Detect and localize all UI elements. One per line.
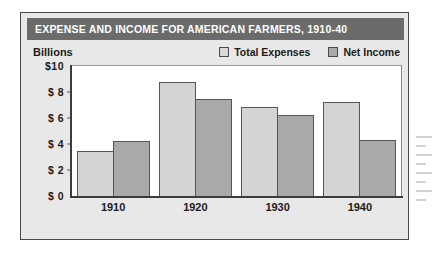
bar-group	[241, 66, 314, 196]
y-axis: $10$ 8$ 6$ 4$ 2$ 0	[27, 65, 67, 197]
legend-swatch-total-expenses	[219, 47, 229, 57]
bars-layer	[72, 66, 401, 196]
bar-group	[159, 66, 232, 196]
bar-group	[77, 66, 150, 196]
chart-title: EXPENSE AND INCOME FOR AMERICAN FARMERS,…	[27, 23, 347, 35]
bar-total-expenses	[323, 102, 360, 196]
page-margin-text	[416, 136, 441, 236]
y-axis-units-label: Billions	[33, 46, 73, 58]
x-axis-tick-label: 1940	[348, 201, 372, 213]
legend-item-net-income: Net Income	[328, 46, 400, 58]
x-axis-tick-label: 1910	[101, 201, 125, 213]
y-axis-tick-label: $10	[45, 60, 64, 72]
bar-net-income	[359, 140, 396, 196]
plot-region: $10$ 8$ 6$ 4$ 2$ 0 1910192019301940	[27, 65, 404, 233]
chart-legend: Total Expenses Net Income	[219, 46, 400, 58]
bar-total-expenses	[159, 82, 196, 196]
x-axis: 1910192019301940	[71, 201, 402, 221]
bar-total-expenses	[77, 151, 114, 197]
bar-group	[323, 66, 396, 196]
legend-label-total-expenses: Total Expenses	[234, 46, 310, 58]
legend-label-net-income: Net Income	[343, 46, 400, 58]
x-axis-tick-label: 1920	[183, 201, 207, 213]
chart-figure: EXPENSE AND INCOME FOR AMERICAN FARMERS,…	[20, 12, 409, 240]
y-axis-tick-label: $ 8	[48, 86, 64, 98]
chart-header-row: Billions Total Expenses Net Income	[27, 43, 404, 65]
x-axis-spine	[70, 196, 403, 198]
legend-swatch-net-income	[328, 47, 338, 57]
x-axis-tick-label: 1930	[265, 201, 289, 213]
bar-net-income	[277, 115, 314, 196]
y-axis-tick-label: $ 6	[48, 112, 64, 124]
bar-total-expenses	[241, 107, 278, 196]
bar-net-income	[195, 99, 232, 197]
chart-title-banner: EXPENSE AND INCOME FOR AMERICAN FARMERS,…	[27, 18, 404, 40]
y-axis-tick-label: $ 2	[48, 164, 64, 176]
bar-net-income	[113, 141, 150, 196]
legend-item-total-expenses: Total Expenses	[219, 46, 310, 58]
y-axis-tick-label: $ 4	[48, 138, 64, 150]
y-axis-tick-label: $ 0	[48, 190, 64, 202]
